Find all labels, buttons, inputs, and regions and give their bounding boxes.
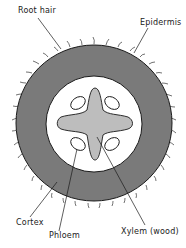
label-root-hair: Root hair xyxy=(18,6,56,15)
label-cortex: Cortex xyxy=(16,218,44,227)
label-epidermis: Epidermis xyxy=(140,18,182,27)
root-cross-section-diagram xyxy=(0,0,186,248)
label-phloem: Phloem xyxy=(49,231,80,240)
epidermis-leader xyxy=(134,28,148,53)
cortex-leader xyxy=(30,182,57,217)
label-xylem: Xylem (wood) xyxy=(121,227,179,236)
root-hair-leader xyxy=(38,18,61,49)
